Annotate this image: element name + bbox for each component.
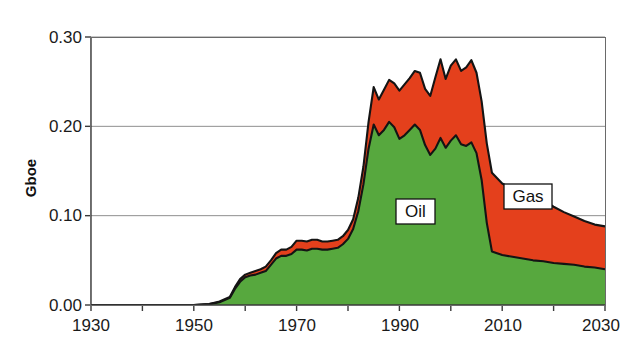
ytick-label-2: 0.10 <box>49 206 82 225</box>
xtick-label-1930: 1930 <box>72 316 110 335</box>
xtick-label-2010: 2010 <box>484 316 522 335</box>
ytick-label-3: 0.00 <box>49 296 82 315</box>
ytick-label-1: 0.20 <box>49 117 82 136</box>
xtick-label-2030: 2030 <box>582 316 620 335</box>
x-axis-tick-labels: 1930 1950 1970 1990 2010 2030 <box>72 316 620 335</box>
y-axis-title: Gboe <box>22 159 39 197</box>
ytick-label-0: 0.30 <box>49 28 82 47</box>
stacked-area-chart: 0.30 0.20 0.10 0.00 1930 1950 1970 1990 … <box>0 0 633 352</box>
y-axis-tick-labels: 0.30 0.20 0.10 0.00 <box>49 28 82 315</box>
series-areas <box>91 59 605 305</box>
annotation-gas: Gas <box>504 184 552 209</box>
chart-plot-shell: 0.30 0.20 0.10 0.00 1930 1950 1970 1990 … <box>0 0 633 352</box>
xtick-label-1970: 1970 <box>278 316 316 335</box>
xtick-label-1990: 1990 <box>381 316 419 335</box>
annotation-oil: Oil <box>396 199 435 224</box>
annotation-gas-label: Gas <box>512 187 543 206</box>
figure-container: 0.30 0.20 0.10 0.00 1930 1950 1970 1990 … <box>0 0 633 352</box>
annotation-oil-label: Oil <box>405 202 426 221</box>
xtick-label-1950: 1950 <box>175 316 213 335</box>
